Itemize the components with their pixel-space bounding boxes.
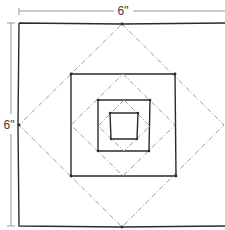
third-square: [98, 100, 150, 151]
outer-square: [18, 23, 225, 227]
vertex-dot: [18, 124, 21, 127]
vertex-dot: [70, 175, 73, 178]
vertex-dot: [70, 73, 73, 76]
vertex-dot: [97, 150, 100, 153]
width-dimension: 6": [19, 4, 225, 18]
outer-diamond: [19, 24, 224, 227]
vertex-dot: [136, 138, 138, 140]
vertex-dot: [121, 226, 124, 229]
vertex-dot: [148, 150, 151, 153]
vertex-dot: [121, 23, 124, 26]
height-dimension: 6": [4, 23, 15, 226]
vertex-dot: [97, 99, 100, 102]
vertex-dot: [175, 175, 178, 178]
middle-diamond: [71, 74, 175, 176]
vertex-dot: [137, 112, 139, 114]
height-label: 6": [4, 118, 15, 132]
width-label: 6": [118, 4, 129, 18]
inner-square: [110, 113, 138, 139]
quilt-block-diagram: 6" 6": [0, 0, 225, 230]
vertex-dot: [109, 112, 111, 114]
vertex-dot: [174, 73, 177, 76]
second-square: [71, 74, 176, 176]
inner-diamond: [98, 100, 150, 151]
vertex-dot: [149, 99, 152, 102]
vertex-dot: [110, 138, 112, 140]
